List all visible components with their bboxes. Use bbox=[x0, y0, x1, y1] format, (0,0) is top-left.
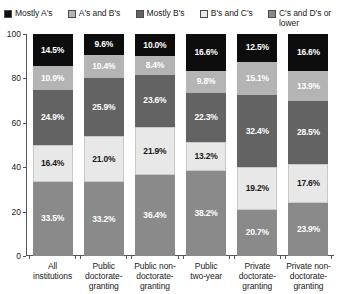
bar-segment-value-label: 16.4% bbox=[41, 159, 64, 168]
bar-segment-value-label: 14.5% bbox=[41, 46, 64, 55]
bar-segment[interactable]: 38.2% bbox=[186, 171, 226, 256]
x-axis-tick-mark bbox=[331, 256, 332, 259]
bar-segment[interactable]: 22.3% bbox=[186, 93, 226, 142]
x-axis-category-label: Publictwo-year bbox=[181, 261, 232, 294]
bar-segment-value-label: 23.6% bbox=[143, 96, 166, 105]
bar-segment-value-label: 25.9% bbox=[92, 103, 115, 112]
bar-segment[interactable]: 36.4% bbox=[135, 175, 175, 256]
bar-segment[interactable]: 28.5% bbox=[288, 101, 328, 164]
bar-segment-value-label: 16.6% bbox=[195, 48, 218, 57]
stacked-bar[interactable]: 9.6%10.4%25.9%21.0%33.2% bbox=[84, 34, 124, 256]
legend-swatch-icon bbox=[200, 10, 208, 18]
bar-segment[interactable]: 24.9% bbox=[33, 90, 73, 145]
bar-segment[interactable]: 9.6% bbox=[84, 34, 124, 55]
x-axis-category-label: Public non-doctorate-granting bbox=[129, 261, 180, 294]
bar-slot: 16.6%9.8%22.3%13.2%38.2% bbox=[181, 34, 232, 256]
bar-segment-value-label: 28.5% bbox=[297, 128, 320, 137]
bar-segment-value-label: 38.2% bbox=[195, 209, 218, 218]
bar-segment[interactable]: 21.0% bbox=[84, 136, 124, 183]
bar-segment-value-label: 10.0% bbox=[143, 41, 166, 50]
bar-segment-value-label: 15.1% bbox=[246, 74, 269, 83]
bar-segment[interactable]: 19.2% bbox=[237, 167, 277, 210]
legend-item-label: Mostly B's bbox=[147, 8, 185, 18]
bar-segment[interactable]: 10.9% bbox=[33, 66, 73, 90]
bar-segment[interactable]: 23.9% bbox=[288, 203, 328, 256]
y-axis-tick-mark bbox=[23, 212, 26, 213]
x-axis-tick-mark bbox=[229, 256, 230, 259]
bar-segment[interactable]: 13.2% bbox=[186, 142, 226, 171]
stacked-bars: 14.5%10.9%24.9%16.4%33.5%9.6%10.4%25.9%2… bbox=[27, 34, 334, 256]
stacked-bar[interactable]: 14.5%10.9%24.9%16.4%33.5% bbox=[33, 34, 73, 256]
stacked-bar[interactable]: 10.0%8.4%23.6%21.9%36.4% bbox=[135, 34, 175, 256]
legend-item-label: B's and C's bbox=[211, 8, 253, 18]
bar-segment[interactable]: 20.7% bbox=[237, 210, 277, 256]
legend-item-label: A's and B's bbox=[79, 8, 120, 18]
bar-segment-value-label: 8.4% bbox=[146, 61, 165, 70]
legend-item[interactable]: Mostly A's bbox=[4, 8, 53, 18]
bar-segment[interactable]: 16.6% bbox=[288, 34, 328, 71]
legend-item[interactable]: A's and B's bbox=[68, 8, 120, 18]
y-axis-tick-mark bbox=[23, 167, 26, 168]
x-axis-labels: AllinstitutionsPublicdoctorate-grantingP… bbox=[27, 261, 334, 294]
x-axis-category-label: Privatedoctorate-granting bbox=[232, 261, 283, 294]
bar-segment[interactable]: 33.5% bbox=[33, 182, 73, 256]
stacked-bar[interactable]: 16.6%13.9%28.5%17.6%23.9% bbox=[288, 34, 328, 256]
legend-item[interactable]: C's and D's or lower bbox=[268, 8, 335, 28]
bar-segment-value-label: 13.9% bbox=[297, 82, 320, 91]
y-axis-tick-label: 80 bbox=[1, 74, 21, 82]
x-axis-tick-mark bbox=[29, 256, 30, 259]
bar-segment[interactable]: 14.5% bbox=[33, 34, 73, 66]
bar-segment-value-label: 33.5% bbox=[41, 214, 64, 223]
bar-segment[interactable]: 21.9% bbox=[135, 127, 175, 175]
bar-segment[interactable]: 25.9% bbox=[84, 78, 124, 135]
bar-segment[interactable]: 33.2% bbox=[84, 182, 124, 256]
bar-segment[interactable]: 10.4% bbox=[84, 55, 124, 78]
bar-segment-value-label: 10.9% bbox=[41, 74, 64, 83]
bar-slot: 14.5%10.9%24.9%16.4%33.5% bbox=[27, 34, 78, 256]
bar-segment[interactable]: 16.6% bbox=[186, 34, 226, 71]
legend-swatch-icon bbox=[68, 10, 76, 18]
legend-item[interactable]: Mostly B's bbox=[136, 8, 185, 18]
x-axis-category-label: Allinstitutions bbox=[27, 261, 78, 294]
bar-segment[interactable]: 13.9% bbox=[288, 71, 328, 102]
bar-segment[interactable]: 32.4% bbox=[237, 95, 277, 167]
bar-segment[interactable]: 23.6% bbox=[135, 75, 175, 127]
y-axis-tick-mark bbox=[23, 78, 26, 79]
stacked-bar[interactable]: 12.5%15.1%32.4%19.2%20.7% bbox=[237, 34, 277, 256]
x-axis-category-label: Publicdoctorate-granting bbox=[78, 261, 129, 294]
legend-item-label: Mostly A's bbox=[15, 8, 53, 18]
bar-segment-value-label: 12.5% bbox=[246, 43, 269, 52]
x-axis-tick-mark bbox=[234, 256, 235, 259]
y-axis-tick-mark bbox=[23, 256, 26, 257]
x-axis-tick-mark bbox=[183, 256, 184, 259]
bar-slot: 16.6%13.9%28.5%17.6%23.9% bbox=[283, 34, 334, 256]
y-axis-tick-mark bbox=[23, 34, 26, 35]
bar-segment[interactable]: 10.0% bbox=[135, 34, 175, 56]
bar-segment-value-label: 10.4% bbox=[92, 62, 115, 71]
y-axis-tick-label: 40 bbox=[1, 163, 21, 171]
legend-item[interactable]: B's and C's bbox=[200, 8, 253, 18]
y-axis-tick-label: 60 bbox=[1, 119, 21, 127]
chart-legend: Mostly A'sA's and B'sMostly B'sB's and C… bbox=[4, 8, 335, 34]
plot-area: 100806040200 14.5%10.9%24.9%16.4%33.5%9.… bbox=[26, 34, 334, 256]
bar-segment-value-label: 17.6% bbox=[297, 179, 320, 188]
x-axis-tick-mark bbox=[126, 256, 127, 259]
bar-segment-value-label: 9.8% bbox=[197, 77, 216, 86]
bar-segment[interactable]: 9.8% bbox=[186, 71, 226, 93]
x-axis-tick-mark bbox=[285, 256, 286, 259]
legend-swatch-icon bbox=[136, 10, 144, 18]
x-axis-tick-mark bbox=[75, 256, 76, 259]
bar-slot: 12.5%15.1%32.4%19.2%20.7% bbox=[232, 34, 283, 256]
bar-segment[interactable]: 12.5% bbox=[237, 34, 277, 62]
bar-segment[interactable]: 15.1% bbox=[237, 62, 277, 96]
bar-segment[interactable]: 16.4% bbox=[33, 145, 73, 181]
bar-segment-value-label: 23.9% bbox=[297, 225, 320, 234]
legend-item-label: C's and D's or lower bbox=[279, 8, 335, 28]
x-axis-tick-mark bbox=[280, 256, 281, 259]
bar-segment-value-label: 21.0% bbox=[92, 155, 115, 164]
x-axis-tick-mark bbox=[131, 256, 132, 259]
stacked-bar[interactable]: 16.6%9.8%22.3%13.2%38.2% bbox=[186, 34, 226, 256]
bar-segment[interactable]: 17.6% bbox=[288, 164, 328, 203]
y-axis-tick-label: 100 bbox=[1, 30, 21, 38]
bar-segment[interactable]: 8.4% bbox=[135, 56, 175, 75]
